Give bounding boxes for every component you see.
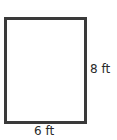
rectangle-shape (4, 17, 87, 124)
height-label: 8 ft (90, 63, 110, 75)
width-label: 6 ft (34, 125, 54, 137)
